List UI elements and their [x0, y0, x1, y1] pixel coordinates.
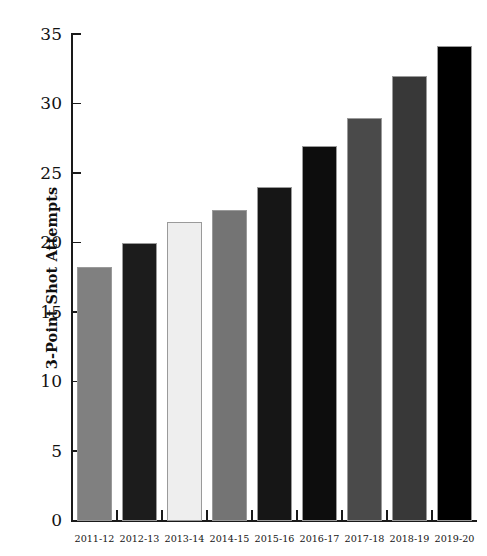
y-tick-label: 35 — [0, 24, 62, 44]
y-tick-label: 30 — [0, 93, 62, 113]
bar — [212, 210, 247, 521]
x-tick-mark — [386, 510, 388, 521]
x-tick-label: 2017-18 — [345, 533, 385, 544]
x-tick-mark — [341, 510, 343, 521]
bar-chart: 3-Point Shot Attempts 05101520253035 201… — [0, 0, 487, 556]
x-tick-label: 2015-16 — [255, 533, 295, 544]
y-tick-label: 5 — [0, 441, 62, 461]
x-tick-label: 2018-19 — [390, 533, 430, 544]
bar-series — [72, 34, 477, 521]
y-tick-label: 20 — [0, 232, 62, 252]
bar — [257, 187, 292, 521]
y-axis-title: 3-Point Shot Attempts — [34, 0, 68, 556]
bar — [167, 222, 202, 521]
bar — [437, 46, 472, 521]
x-tick-mark — [251, 510, 253, 521]
x-tick-label: 2011-12 — [75, 533, 115, 544]
y-tick-label: 15 — [0, 302, 62, 322]
bar — [347, 118, 382, 521]
x-tick-label: 2014-15 — [210, 533, 250, 544]
bar — [392, 76, 427, 521]
x-tick-label: 2019-20 — [435, 533, 475, 544]
x-tick-mark — [161, 510, 163, 521]
y-tick-label: 25 — [0, 163, 62, 183]
x-tick-mark — [296, 510, 298, 521]
x-tick-mark — [116, 510, 118, 521]
bar — [77, 267, 112, 521]
bar — [122, 243, 157, 521]
x-tick-mark — [431, 510, 433, 521]
bar — [302, 146, 337, 521]
x-tick-label: 2012-13 — [120, 533, 160, 544]
y-tick-label: 10 — [0, 371, 62, 391]
x-tick-label: 2013-14 — [165, 533, 205, 544]
x-tick-mark — [206, 510, 208, 521]
x-tick-label: 2016-17 — [300, 533, 340, 544]
y-tick-label: 0 — [0, 510, 62, 530]
